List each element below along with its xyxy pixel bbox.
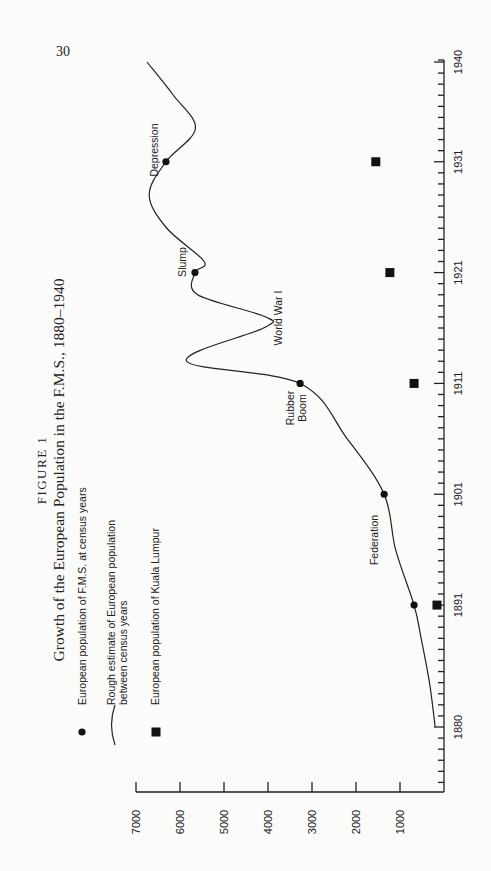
census-point [410,601,417,608]
annotation-label: Boom [296,394,308,422]
annotations-layer: FederationRubberBoomWorld War ISlumpDepr… [148,123,380,565]
annotation-label: Federation [368,515,380,565]
annotation-label: Rubber [284,390,296,425]
census-point [191,269,198,276]
population-tick-label: 2000 [350,810,362,834]
population-tick-label-group: 3000 [306,810,318,834]
year-tick-label: 1911 [452,372,464,396]
legend-entry-estimate: Rough estimate of European populationbet… [105,520,129,705]
year-tick-label: 1940 [452,50,464,74]
census-point [297,380,304,387]
legend-square-icon [152,728,161,737]
axes: 1880189119011911192119311940100020003000… [130,50,464,834]
kuala-lumpur-point [371,157,380,166]
marks-layer [162,157,441,609]
population-tick-label-group: 5000 [218,810,230,834]
population-tick-label: 1000 [394,810,406,834]
year-tick-label-group: 1880 [452,715,464,739]
year-tick-label-group: 1901 [452,482,464,506]
population-tick-label: 5000 [218,810,230,834]
annotation-label: Slump [176,247,188,277]
annotation-group: Depression [148,123,160,176]
population-tick-label: 6000 [174,810,186,834]
year-tick-label: 1891 [452,593,464,617]
legend-label: between census years [117,601,129,705]
population-tick-label-group: 1000 [394,810,406,834]
kuala-lumpur-point [385,268,394,277]
population-tick-label-group: 4000 [262,810,274,834]
census-point [381,491,388,498]
figure-label: FIGURE 1 [34,436,49,505]
chart: 30 FIGURE 1 Growth of the European Popul… [0,0,491,871]
year-tick-label: 1880 [452,715,464,739]
kuala-lumpur-point [410,379,419,388]
year-tick-label: 1931 [452,150,464,174]
year-tick-label: 1921 [452,260,464,284]
legend: European population of F.M.S. at census … [76,487,161,745]
legend-curve-icon [112,705,116,745]
legend-circle-icon [78,728,85,735]
annotation-group: RubberBoom [284,390,308,425]
legend-entry-kuala-lumpur: European population of Kuala Lumpur [149,528,161,705]
population-tick-label: 4000 [262,810,274,834]
annotation-group: Federation [368,515,380,565]
chart-title: Growth of the European Population in the… [50,278,67,661]
population-tick-label-group: 7000 [130,810,142,834]
population-tick-label: 3000 [306,810,318,834]
year-tick-label-group: 1931 [452,150,464,174]
year-tick-label: 1901 [452,482,464,506]
annotation-label: World War I [272,291,284,346]
page-number: 30 [56,44,70,59]
legend-label: European population of F.M.S. at census … [76,487,88,705]
kuala-lumpur-point [432,601,441,610]
population-tick-label-group: 6000 [174,810,186,834]
year-tick-label-group: 1911 [452,372,464,396]
year-tick-label-group: 1891 [452,593,464,617]
annotation-group: World War I [272,291,284,346]
year-tick-label-group: 1921 [452,260,464,284]
figure-heading: FIGURE 1 Growth of the European Populati… [34,278,67,661]
legend-entry-census: European population of F.M.S. at census … [76,487,88,705]
census-point [162,158,169,165]
population-tick-label-group: 2000 [350,810,362,834]
annotation-label: Depression [148,123,160,176]
year-tick-label-group: 1940 [452,50,464,74]
population-tick-label: 7000 [130,810,142,834]
legend-label: European population of Kuala Lumpur [149,528,161,705]
legend-label: Rough estimate of European population [105,520,117,705]
annotation-group: Slump [176,247,188,277]
